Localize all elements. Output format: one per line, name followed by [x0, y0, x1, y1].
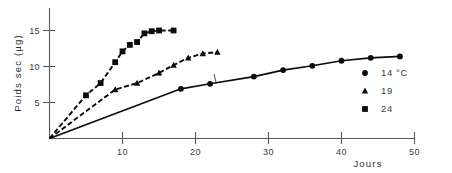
x-tick-label-40: 40 [336, 147, 347, 157]
series-layer [50, 28, 403, 139]
chart-legend: 14 °C1924 [362, 67, 408, 114]
y-tick-label-15: 15 [29, 26, 40, 36]
stray-pen-mark [214, 74, 216, 82]
circle-marker [251, 74, 257, 80]
square-marker [83, 92, 89, 98]
circle-marker [397, 54, 403, 60]
square-marker [112, 59, 118, 65]
chart-figure: 15 10 5 10 20 30 40 50 Poids sec (µg) Jo… [0, 0, 452, 173]
square-marker [120, 48, 126, 54]
y-tick-label-10: 10 [29, 62, 40, 72]
legend-entry-2: 19 [362, 85, 393, 96]
circle-marker [309, 63, 315, 69]
x-tick-label-20: 20 [190, 147, 201, 157]
legend-label-1: 14 °C [381, 67, 408, 78]
x-axis-tick-labels: 10 20 30 40 50 [117, 147, 420, 157]
legend-entry-1: 14 °C [362, 67, 408, 78]
square-marker [134, 39, 140, 45]
square-marker [149, 28, 155, 34]
series-2 [50, 49, 221, 139]
square-marker [156, 28, 162, 34]
x-tick-label-30: 30 [263, 147, 274, 157]
series-line-2 [50, 52, 218, 138]
legend-entry-3: 24 [362, 103, 393, 114]
y-tick-label-5: 5 [35, 98, 40, 108]
square-marker [362, 106, 368, 112]
circle-marker [339, 58, 345, 64]
legend-label-2: 19 [381, 85, 393, 96]
circle-marker [178, 86, 184, 92]
x-axis-title: Jours [353, 158, 382, 169]
circle-marker [368, 55, 374, 61]
square-marker [127, 42, 133, 48]
square-marker [98, 80, 104, 86]
x-tick-label-50: 50 [409, 147, 420, 157]
x-tick-label-10: 10 [117, 147, 128, 157]
circle-marker [362, 70, 368, 76]
line-chart-svg: 15 10 5 10 20 30 40 50 Poids sec (µg) Jo… [0, 0, 452, 173]
series-1 [50, 54, 403, 139]
series-3 [50, 28, 177, 139]
circle-marker [280, 67, 286, 73]
series-line-3 [50, 31, 174, 139]
y-axis-tick-labels: 15 10 5 [29, 26, 40, 108]
triangle-marker [214, 49, 220, 55]
square-marker [142, 30, 148, 36]
square-marker [171, 28, 177, 34]
series-line-1 [50, 56, 400, 138]
circle-marker [207, 81, 213, 87]
triangle-marker [362, 88, 368, 94]
y-axis-title: Poids sec (µg) [12, 34, 23, 112]
legend-label-3: 24 [381, 103, 393, 114]
